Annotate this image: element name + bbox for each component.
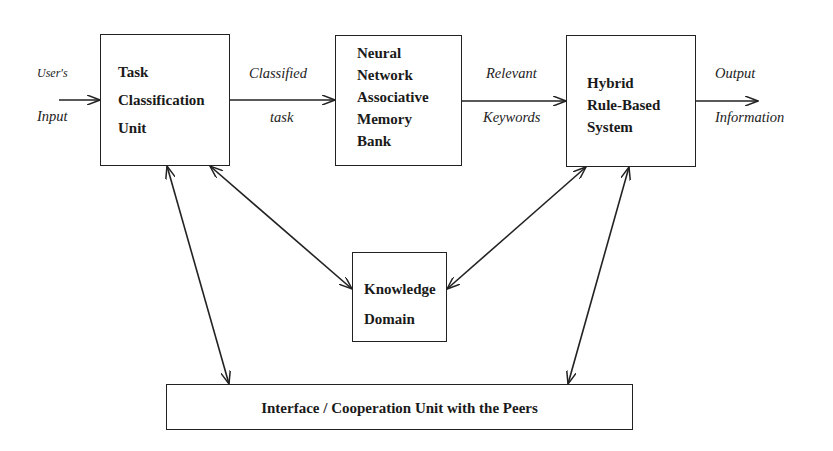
label-input: Input (37, 108, 68, 125)
box-line: System (587, 116, 660, 138)
box-line: Domain (364, 304, 436, 334)
arrow-task-knowledge (210, 166, 352, 289)
knowledge-domain-box: Knowledge Domain (352, 252, 447, 342)
box-line: Associative (357, 86, 429, 108)
box-line: Neural (357, 42, 429, 64)
label-classified: Classified (249, 65, 307, 82)
label-relevant: Relevant (486, 65, 537, 82)
label-task: task (270, 109, 293, 126)
box-line: Network (357, 64, 429, 86)
box-line: Rule-Based (587, 94, 660, 116)
label-output: Output (715, 65, 755, 82)
box-line: Interface / Cooperation Unit with the Pe… (167, 398, 632, 419)
neural-network-memory-box: Neural Network Associative Memory Bank (335, 35, 462, 166)
box-line: Hybrid (587, 72, 660, 94)
hybrid-rule-based-system-box: Hybrid Rule-Based System (566, 35, 696, 167)
box-line: Bank (357, 130, 429, 152)
task-classification-unit-box: Task Classification Unit (100, 34, 230, 166)
box-line: Knowledge (364, 274, 436, 304)
box-line: Task (118, 58, 205, 86)
arrow-hybrid-knowledge (447, 167, 586, 289)
interface-cooperation-unit-box: Interface / Cooperation Unit with the Pe… (166, 384, 633, 430)
label-users: User's (37, 66, 68, 81)
arrow-task-interface (167, 166, 229, 384)
box-line: Classification (118, 86, 205, 114)
box-line: Unit (118, 114, 205, 142)
label-keywords: Keywords (483, 109, 540, 126)
label-information: Information (715, 109, 784, 126)
arrow-hybrid-interface (568, 167, 629, 384)
box-line: Memory (357, 108, 429, 130)
